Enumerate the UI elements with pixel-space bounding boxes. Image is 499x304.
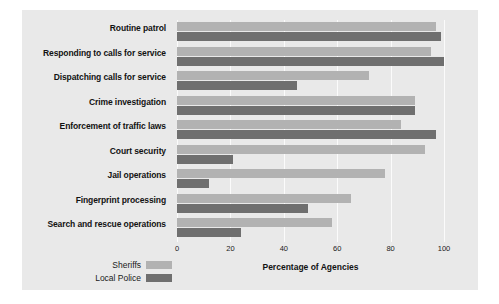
x-axis-title: Percentage of Agencies: [177, 262, 444, 272]
legend-swatch-sheriffs: [146, 261, 172, 269]
bar-group: [177, 96, 467, 117]
category-axis-labels: Routine patrolResponding to calls for se…: [22, 20, 172, 242]
bar-group: [177, 145, 467, 166]
bar-group: [177, 194, 467, 215]
bar-sheriffs: [177, 22, 436, 31]
legend-item: Sheriffs: [40, 258, 172, 271]
bar-sheriffs: [177, 71, 369, 80]
x-tick-label: 100: [438, 244, 451, 253]
bar-group: [177, 120, 467, 141]
bar-group: [177, 47, 467, 68]
category-label: Search and rescue operations: [18, 219, 166, 229]
bar-group: [177, 22, 467, 43]
legend-label: Sheriffs: [112, 260, 141, 270]
plot-area: [177, 20, 467, 242]
bar-local-police: [177, 204, 308, 213]
category-label: Routine patrol: [18, 23, 166, 33]
bar-rows: [177, 20, 467, 242]
bar-group: [177, 71, 467, 92]
x-tick-label: 80: [386, 244, 394, 253]
legend-item: Local Police: [40, 271, 172, 284]
category-label: Court security: [18, 146, 166, 156]
bar-local-police: [177, 179, 209, 188]
bar-sheriffs: [177, 120, 401, 129]
bar-sheriffs: [177, 96, 415, 105]
bar-sheriffs: [177, 169, 385, 178]
bar-local-police: [177, 228, 241, 237]
x-axis-ticks: 020406080100: [177, 244, 467, 260]
legend-label: Local Police: [95, 273, 141, 283]
category-label: Jail operations: [18, 170, 166, 180]
bar-group: [177, 218, 467, 239]
category-label: Dispatching calls for service: [18, 72, 166, 82]
category-label: Crime investigation: [18, 97, 166, 107]
x-tick-label: 0: [175, 244, 179, 253]
bar-sheriffs: [177, 218, 332, 227]
bar-group: [177, 169, 467, 190]
x-tick-label: 40: [280, 244, 288, 253]
category-label: Responding to calls for service: [18, 48, 166, 58]
bar-sheriffs: [177, 194, 351, 203]
bar-local-police: [177, 130, 436, 139]
chart-figure: Routine patrolResponding to calls for se…: [22, 10, 478, 290]
bar-local-police: [177, 32, 441, 41]
category-label: Fingerprint processing: [18, 195, 166, 205]
x-tick-label: 60: [333, 244, 341, 253]
bar-local-police: [177, 81, 297, 90]
category-label: Enforcement of traffic laws: [18, 121, 166, 131]
legend-swatch-police: [146, 274, 172, 282]
chart-legend: SheriffsLocal Police: [40, 258, 172, 284]
bar-local-police: [177, 155, 233, 164]
bar-sheriffs: [177, 47, 431, 56]
bar-local-police: [177, 106, 415, 115]
bar-local-police: [177, 57, 444, 66]
x-tick-label: 20: [226, 244, 234, 253]
bar-sheriffs: [177, 145, 425, 154]
